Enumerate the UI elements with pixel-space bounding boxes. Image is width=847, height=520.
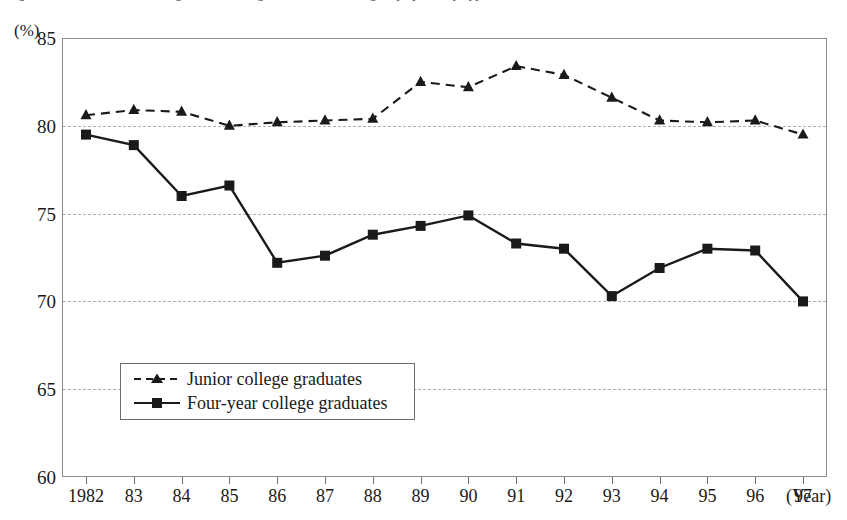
- figure-caption: Figure 3-2 Trends in the Percentage of N…: [8, 0, 838, 1]
- x-tick-label-91: 91: [507, 487, 525, 506]
- x-tick-mark-91: [516, 477, 517, 484]
- gridline-80: [63, 126, 826, 127]
- x-tick-mark-94: [660, 477, 661, 484]
- x-tick-mark-96: [755, 477, 756, 484]
- y-tick-label-85: 85: [10, 29, 56, 48]
- x-tick-label-93: 93: [603, 487, 621, 506]
- x-tick-label-96: 96: [746, 487, 764, 506]
- x-tick-mark-89: [421, 477, 422, 484]
- legend-label-junior-college: Junior college graduates: [187, 369, 362, 389]
- x-tick-label-89: 89: [412, 487, 430, 506]
- y-tick-label-80: 80: [10, 117, 56, 136]
- x-tick-label-85: 85: [220, 487, 238, 506]
- x-tick-label-95: 95: [698, 487, 716, 506]
- y-tick-label-60: 60: [10, 468, 56, 487]
- x-tick-label-87: 87: [316, 487, 334, 506]
- x-tick-mark-95: [707, 477, 708, 484]
- legend-item-four-year-college: Four-year college graduates: [133, 390, 388, 416]
- x-tick-label-88: 88: [364, 487, 382, 506]
- legend-sample-solid-square: [133, 393, 181, 413]
- legend-sample-dashed-triangle: [133, 369, 181, 389]
- x-tick-mark-1982: [86, 477, 87, 484]
- legend-label-four-year-college: Four-year college graduates: [187, 393, 388, 413]
- chart-legend: Junior college graduates Four-year colle…: [120, 363, 415, 420]
- x-tick-mark-85: [229, 477, 230, 484]
- x-tick-mark-92: [564, 477, 565, 484]
- x-tick-label-84: 84: [173, 487, 191, 506]
- legend-item-junior-college: Junior college graduates: [133, 366, 362, 392]
- x-tick-label-86: 86: [268, 487, 286, 506]
- x-tick-mark-83: [134, 477, 135, 484]
- x-tick-mark-90: [468, 477, 469, 484]
- y-tick-label-70: 70: [10, 292, 56, 311]
- x-tick-label-1982: 1982: [68, 487, 104, 506]
- y-tick-label-75: 75: [10, 205, 56, 224]
- x-tick-label-92: 92: [555, 487, 573, 506]
- x-tick-mark-88: [373, 477, 374, 484]
- x-tick-mark-93: [612, 477, 613, 484]
- x-tick-label-94: 94: [651, 487, 669, 506]
- x-tick-mark-87: [325, 477, 326, 484]
- gridline-75: [63, 214, 826, 215]
- x-tick-label-90: 90: [459, 487, 477, 506]
- gridline-70: [63, 301, 826, 302]
- y-tick-label-65: 65: [10, 380, 56, 399]
- x-tick-mark-86: [277, 477, 278, 484]
- x-tick-mark-97: [803, 477, 804, 484]
- x-tick-label-83: 83: [125, 487, 143, 506]
- x-tick-mark-84: [182, 477, 183, 484]
- x-axis-title: (Year): [786, 487, 831, 506]
